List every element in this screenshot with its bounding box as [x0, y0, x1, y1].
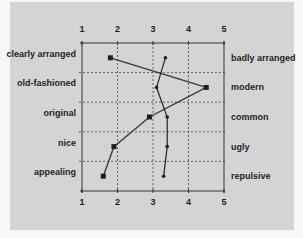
- left-pole-label: nice: [58, 138, 76, 148]
- dot-marker: [165, 115, 169, 119]
- x-axis-bottom-ticks: 12345: [79, 189, 226, 207]
- data-series: [101, 55, 209, 178]
- x-tick-label-top: 2: [115, 24, 120, 34]
- x-tick-label-top: 5: [221, 24, 226, 34]
- left-pole-label: clearly arranged: [6, 49, 76, 59]
- dot-marker: [162, 174, 166, 178]
- x-tick-label-top: 3: [150, 24, 155, 34]
- left-pole-labels: clearly arrangedold-fashionedoriginalnic…: [6, 49, 76, 177]
- right-pole-label: badly arranged: [231, 53, 296, 63]
- x-tick-label-top: 1: [79, 24, 84, 34]
- left-pole-label: old-fashioned: [17, 78, 76, 88]
- dot-marker: [164, 56, 168, 60]
- right-pole-label: modern: [231, 82, 264, 92]
- dot-marker: [155, 86, 159, 90]
- grid-lines: [79, 43, 227, 191]
- x-tick-label-bottom: 2: [115, 197, 120, 207]
- right-pole-labels: badly arrangedmoderncommonuglyrepulsive: [231, 53, 296, 181]
- x-axis-top-ticks: 12345: [79, 24, 226, 45]
- dot-marker: [165, 145, 169, 149]
- axes: [80, 41, 225, 193]
- right-pole-label: common: [231, 112, 269, 122]
- semantic-differential-chart: 12345 12345 clearly arrangedold-fashione…: [0, 0, 303, 238]
- series-square-markers: [101, 55, 209, 178]
- square-marker: [147, 115, 152, 120]
- x-tick-label-bottom: 1: [79, 197, 84, 207]
- x-tick-label-bottom: 3: [150, 197, 155, 207]
- x-tick-label-top: 4: [186, 24, 191, 34]
- x-tick-label-bottom: 4: [186, 197, 191, 207]
- square-marker: [204, 85, 209, 90]
- left-pole-label: appealing: [34, 167, 76, 177]
- square-marker: [111, 144, 116, 149]
- right-pole-label: ugly: [231, 142, 250, 152]
- right-pole-label: repulsive: [231, 171, 271, 181]
- left-pole-label: original: [43, 108, 76, 118]
- square-marker: [101, 174, 106, 179]
- x-tick-label-bottom: 5: [221, 197, 226, 207]
- square-marker: [108, 55, 113, 60]
- series-line: [103, 58, 206, 176]
